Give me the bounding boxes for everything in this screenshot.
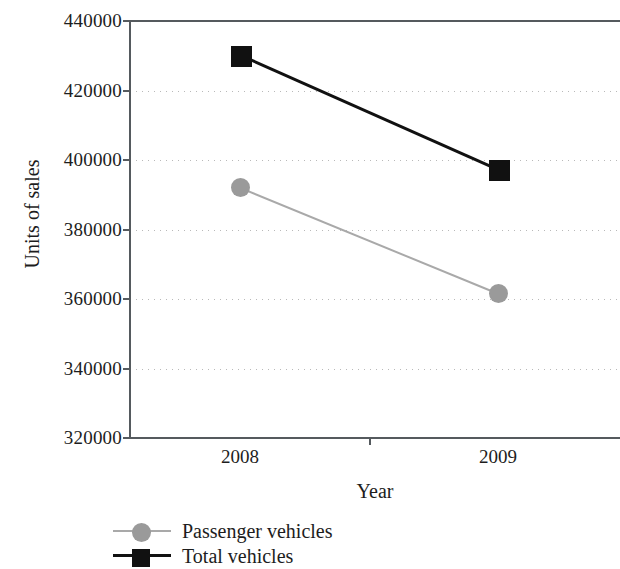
legend-item: Total vehicles bbox=[113, 543, 333, 568]
y-axis-tick-label: 380000 bbox=[34, 220, 122, 239]
legend-item-label: Passenger vehicles bbox=[182, 520, 333, 542]
line-chart: Units of sales 3200003400003600003800004… bbox=[0, 0, 620, 569]
x-axis-tick-label: 2008 bbox=[180, 447, 300, 466]
y-axis-tick-label: 440000 bbox=[34, 11, 122, 30]
x-axis-tick-mark bbox=[369, 438, 371, 445]
circle-marker-icon bbox=[231, 178, 250, 197]
y-axis-tick-label: 340000 bbox=[34, 359, 122, 378]
plot-area bbox=[130, 21, 620, 438]
legend-item-label: Total vehicles bbox=[182, 545, 293, 567]
x-axis-title: Year bbox=[130, 481, 620, 501]
series-line bbox=[240, 188, 498, 294]
y-axis-tick-label: 400000 bbox=[34, 150, 122, 169]
y-axis-tick-label: 320000 bbox=[34, 428, 122, 447]
series-lines bbox=[130, 21, 620, 438]
circle-marker-icon bbox=[113, 520, 171, 542]
x-axis-tick-label: 2009 bbox=[438, 447, 558, 466]
y-axis-tick-label: 360000 bbox=[34, 289, 122, 308]
square-marker-icon bbox=[231, 46, 252, 67]
chart-legend: Passenger vehicles Total vehicles bbox=[113, 518, 333, 568]
y-axis-tick-label: 420000 bbox=[34, 81, 122, 100]
series-line bbox=[240, 55, 498, 170]
circle-marker-icon bbox=[489, 284, 508, 303]
square-marker-icon bbox=[113, 545, 171, 567]
legend-item: Passenger vehicles bbox=[113, 518, 333, 543]
square-marker-icon bbox=[489, 160, 510, 181]
